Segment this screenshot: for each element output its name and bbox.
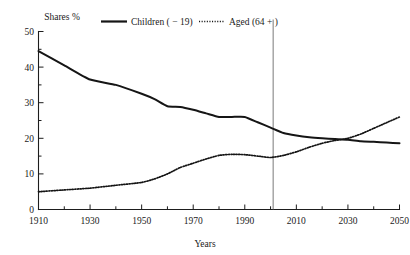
x-tick-label: 1950 [132,216,151,226]
chart-container: 01020304050 1910193019501970199020102030… [0,0,410,255]
x-tick-label: 1970 [184,216,203,226]
x-tick-label: 1910 [29,216,48,226]
x-tick-label: 1990 [235,216,254,226]
y-tick-label: 50 [25,27,35,37]
y-tick-label: 30 [25,98,35,108]
y-tick-label: 0 [29,205,34,215]
y-tick-label: 10 [25,169,35,179]
y-tick-label: 20 [25,134,35,144]
line-chart: 01020304050 1910193019501970199020102030… [0,0,410,255]
x-axis-title: Years [194,239,216,249]
legend-label-children: Children ( − 19) [131,17,193,28]
y-tick-label: 40 [25,63,35,73]
x-tick-label: 2030 [338,216,357,226]
x-tick-label: 2050 [390,216,409,226]
x-tick-label: 1930 [81,216,100,226]
y-axis-title: Shares % [44,12,80,22]
legend-label-aged: Aged (64 + ) [229,17,278,28]
x-tick-label: 2010 [287,216,306,226]
